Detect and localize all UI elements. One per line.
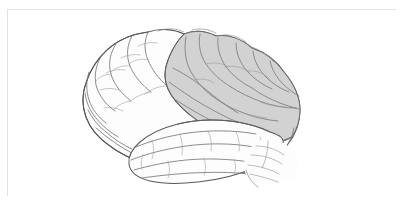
figure-canvas: Lateral view of human brain with highlig… [0, 0, 408, 213]
brain-lateral-diagram: Lateral view of human brain with highlig… [8, 10, 397, 197]
figure-frame: Lateral view of human brain with highlig… [7, 9, 396, 196]
